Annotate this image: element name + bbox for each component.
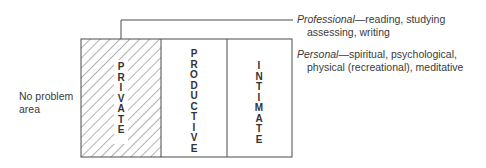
column-letter: A (117, 104, 124, 115)
column-letter: E (191, 144, 198, 155)
column-letter: I (258, 61, 261, 72)
column-letter: U (190, 91, 197, 102)
professional-dash: — (355, 13, 366, 25)
column-label-productive: PRODUCTIVE (188, 49, 200, 154)
column-label-private: PRIVATE (115, 62, 127, 136)
professional-annotation: Professional—reading, studying assessing… (297, 13, 445, 38)
personal-desc-line2: physical (recreational), meditative (297, 61, 463, 74)
professional-desc-line1: reading, studying (365, 13, 445, 25)
column-letter: P (191, 49, 198, 60)
professional-desc-line2: assessing, writing (297, 26, 445, 39)
connector-line (121, 20, 293, 39)
column-letter: I (120, 83, 123, 94)
column-letter: T (191, 112, 197, 123)
column-letter: E (256, 135, 263, 146)
column-letter: P (118, 62, 125, 73)
personal-term: Personal (297, 48, 338, 60)
personal-annotation: Personal—spiritual, psychological, physi… (297, 48, 463, 73)
column-letter: E (118, 125, 125, 136)
column-letter: M (255, 103, 263, 114)
no-problem-line1: No problem (19, 90, 73, 102)
personal-dash: — (338, 48, 349, 60)
no-problem-area-label: No problem area (19, 90, 73, 115)
column-letter: V (191, 133, 198, 144)
column-label-intimate: INTIMATE (253, 61, 265, 145)
column-letter: T (256, 82, 262, 93)
column-letter: T (256, 124, 262, 135)
no-problem-line2: area (19, 103, 40, 115)
column-letter: O (190, 70, 198, 81)
personal-desc-line1: spiritual, psychological, (349, 48, 457, 60)
professional-term: Professional (297, 13, 355, 25)
